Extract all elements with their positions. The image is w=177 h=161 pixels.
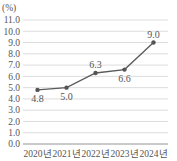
x-tick-label: 2022년 xyxy=(82,149,110,159)
data-point xyxy=(122,67,126,71)
data-label: 6.3 xyxy=(89,59,102,70)
line-chart: (%) 0.01.02.03.04.05.06.07.08.09.010.011… xyxy=(0,0,177,161)
data-label: 5.0 xyxy=(60,91,73,102)
y-tick-label: 7.0 xyxy=(8,60,20,70)
y-axis-ticks: 0.01.02.03.04.05.06.07.08.09.010.011.0 xyxy=(3,15,20,149)
gridlines xyxy=(23,20,168,144)
data-point xyxy=(64,85,68,89)
x-axis-ticks: 2020년2021년2022년2023년2024년 xyxy=(24,149,168,159)
y-tick-label: 9.0 xyxy=(8,38,20,48)
data-labels: 4.85.06.36.69.0 xyxy=(31,29,160,104)
y-tick-label: 11.0 xyxy=(4,15,21,25)
x-tick-label: 2021년 xyxy=(53,149,81,159)
y-tick-label: 1.0 xyxy=(8,128,20,138)
y-tick-label: 0.0 xyxy=(8,139,20,149)
data-point xyxy=(93,71,97,75)
x-tick-label: 2023년 xyxy=(111,149,139,159)
y-tick-label: 3.0 xyxy=(8,105,20,115)
data-label: 9.0 xyxy=(147,29,160,40)
y-tick-label: 10.0 xyxy=(3,27,20,37)
x-tick-label: 2020년 xyxy=(24,149,52,159)
y-tick-label: 8.0 xyxy=(8,49,20,59)
data-point xyxy=(151,40,155,44)
y-tick-label: 2.0 xyxy=(8,117,20,127)
y-tick-label: 6.0 xyxy=(8,72,20,82)
data-label: 4.8 xyxy=(31,93,44,104)
y-tick-label: 4.0 xyxy=(8,94,20,104)
y-axis-unit-label: (%) xyxy=(2,3,16,14)
x-tick-label: 2024년 xyxy=(140,149,168,159)
data-point xyxy=(35,88,39,92)
data-label: 6.6 xyxy=(118,73,131,84)
y-tick-label: 5.0 xyxy=(8,83,20,93)
